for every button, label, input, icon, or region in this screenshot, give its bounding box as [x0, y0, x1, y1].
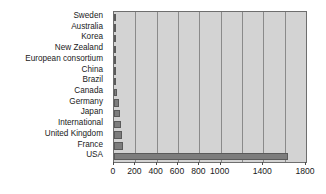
- bar: [114, 78, 116, 85]
- category-label: China: [82, 65, 103, 76]
- tick-label: 400: [148, 166, 162, 176]
- tick-mark: [220, 162, 221, 165]
- tick-mark: [113, 162, 114, 165]
- tick-label: 0: [111, 166, 116, 176]
- bar-row: [114, 87, 306, 98]
- category-label: Canada: [74, 86, 103, 97]
- value-axis: 0200400600800100014001800: [113, 162, 306, 192]
- bar: [114, 110, 120, 117]
- bar-row: [114, 98, 306, 109]
- bar-row: [114, 55, 306, 66]
- bar-row: [114, 130, 306, 141]
- tick-label: 200: [127, 166, 141, 176]
- plot-area: [113, 11, 307, 163]
- bar-row: [114, 66, 306, 77]
- tick-label: 800: [191, 166, 205, 176]
- bar: [114, 56, 116, 63]
- tick-mark: [156, 162, 157, 165]
- tick-label: 1800: [295, 166, 314, 176]
- category-label: USA: [86, 150, 103, 161]
- tick-mark: [305, 162, 306, 165]
- tick-mark: [177, 162, 178, 165]
- bar-row: [114, 141, 306, 152]
- bar-row: [114, 76, 306, 87]
- bar-row: [114, 151, 306, 162]
- bar: [114, 131, 122, 138]
- bar: [114, 46, 116, 53]
- bar-row: [114, 23, 306, 34]
- bar: [114, 99, 119, 106]
- category-label: International: [58, 118, 103, 129]
- bar: [114, 142, 123, 149]
- bar: [114, 121, 121, 128]
- bar: [114, 89, 117, 96]
- bar-row: [114, 12, 306, 23]
- tick-mark: [134, 162, 135, 165]
- bar-chart: SwedenAustraliaKoreaNew ZealandEuropean …: [0, 0, 326, 194]
- tick-label: 1000: [210, 166, 229, 176]
- tick-mark: [262, 162, 263, 165]
- tick-label: 1400: [253, 166, 272, 176]
- bar: [114, 153, 288, 160]
- category-label: Brazil: [83, 75, 103, 86]
- category-label: Sweden: [73, 11, 103, 22]
- category-label: Australia: [71, 22, 103, 33]
- category-label: Germany: [69, 97, 103, 108]
- tick-mark: [198, 162, 199, 165]
- category-label: United Kingdom: [45, 129, 103, 140]
- bar-row: [114, 33, 306, 44]
- category-label: New Zealand: [55, 43, 103, 54]
- category-label: France: [78, 140, 103, 151]
- category-label: Korea: [81, 32, 103, 43]
- bar: [114, 14, 116, 21]
- bar: [114, 24, 116, 31]
- bar: [114, 35, 116, 42]
- bar-row: [114, 119, 306, 130]
- tick-label: 600: [170, 166, 184, 176]
- bar-row: [114, 108, 306, 119]
- category-label: European consortium: [25, 54, 103, 65]
- bar: [114, 67, 116, 74]
- category-label: Japan: [81, 107, 103, 118]
- category-axis: SwedenAustraliaKoreaNew ZealandEuropean …: [0, 11, 106, 161]
- bar-row: [114, 44, 306, 55]
